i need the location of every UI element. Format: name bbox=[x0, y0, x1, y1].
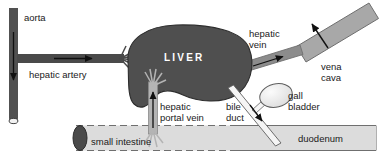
label-gall-bladder-line2: bladder bbox=[288, 101, 320, 112]
label-duodenum: duodenum bbox=[298, 133, 343, 144]
aorta-cut-end bbox=[9, 118, 18, 123]
vena-cava-group bbox=[297, 3, 379, 62]
label-hepatic-portal-vein-line2: portal vein bbox=[160, 112, 204, 123]
liver-label: LIVER bbox=[164, 52, 204, 63]
small-intestine-cut-end bbox=[73, 126, 87, 151]
label-gall-bladder-line1: gall bbox=[288, 90, 303, 101]
liver-anatomy-diagram: LIVER bbox=[0, 0, 384, 156]
label-hepatic-vein-line2: vein bbox=[249, 39, 266, 50]
label-vena-cava-line1: vena bbox=[321, 61, 342, 72]
label-aorta: aorta bbox=[24, 12, 46, 23]
aorta-group bbox=[9, 8, 18, 124]
label-bile-duct-line2: duct bbox=[226, 112, 244, 123]
label-bile-duct-line1: bile bbox=[226, 101, 241, 112]
label-hepatic-vein-line1: hepatic bbox=[249, 28, 280, 39]
label-hepatic-portal-vein-line1: hepatic bbox=[160, 101, 191, 112]
vena-cava-vessel bbox=[297, 3, 379, 62]
hepatic-artery-group bbox=[17, 46, 140, 70]
label-vena-cava-line2: cava bbox=[321, 72, 342, 83]
label-hepatic-artery: hepatic artery bbox=[29, 69, 87, 80]
label-small-intestine: small intestine bbox=[91, 136, 151, 147]
